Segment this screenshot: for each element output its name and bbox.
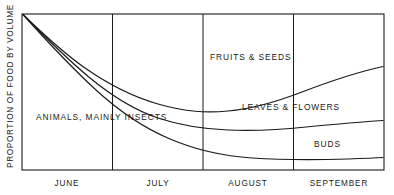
x-axis-tick-june: JUNE	[55, 179, 80, 188]
x-axis-tick-august: AUGUST	[228, 179, 268, 188]
region-label-buds: BUDS	[314, 139, 341, 149]
chart-container: ANIMALS, MAINLY INSECTS FRUITS & SEEDS L…	[0, 0, 394, 195]
x-axis-tick-july: JULY	[146, 179, 169, 188]
food-proportion-line-chart: ANIMALS, MAINLY INSECTS FRUITS & SEEDS L…	[0, 0, 394, 195]
region-label-leaves-flowers: LEAVES & FLOWERS	[242, 102, 340, 112]
x-axis-tick-september: SEPTEMBER	[310, 179, 369, 188]
region-label-fruits-seeds: FRUITS & SEEDS	[210, 52, 291, 62]
y-axis-label: PROPORTION OF FOOD BY VOLUME	[6, 4, 15, 168]
region-label-animals: ANIMALS, MAINLY INSECTS	[36, 112, 167, 122]
